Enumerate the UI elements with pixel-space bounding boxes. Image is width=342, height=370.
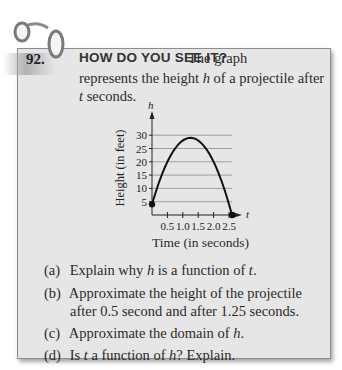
y-tick-labels: 51015202530 [136, 129, 148, 208]
y-axis-label: Height (in feet) [113, 129, 127, 206]
projectile-curve [152, 138, 232, 215]
svg-text:2.5: 2.5 [222, 220, 236, 232]
text: ? Explain. [176, 347, 235, 363]
svg-text:15: 15 [136, 169, 148, 181]
intro-line-2: represents the height h of a projectile … [79, 70, 324, 87]
x-axis-var: t [246, 208, 250, 220]
grid-lines [149, 135, 232, 202]
question-b: (b) Approximate the height of the projec… [44, 285, 302, 302]
y-axis-var: h [148, 100, 154, 111]
text: Approximate the height of the projectile [69, 285, 302, 301]
question-c: (c) Approximate the domain of h. [44, 325, 244, 342]
question-label: (b) [44, 285, 66, 302]
svg-text:10: 10 [136, 182, 148, 194]
x-axis-label: Time (in seconds) [152, 235, 249, 251]
text: . [253, 262, 257, 278]
text: Is [70, 347, 84, 363]
svg-text:5: 5 [142, 196, 148, 208]
y-axis-arrow-icon [150, 111, 155, 119]
question-label: (a) [44, 262, 66, 279]
svg-text:30: 30 [136, 129, 148, 141]
svg-text:1.5: 1.5 [191, 220, 205, 232]
cropped-previous-text [62, 0, 342, 7]
text: Explain why [70, 262, 147, 278]
text: . [240, 325, 244, 341]
svg-text:1.0: 1.0 [176, 220, 190, 232]
text: represents the height [79, 70, 203, 86]
question-label: (d) [44, 347, 66, 364]
text: a function of [88, 347, 169, 363]
svg-text:0.5: 0.5 [161, 220, 175, 232]
question-d: (d) Is t a function of h? Explain. [44, 347, 235, 364]
exercise-number: 92. [26, 51, 45, 68]
text: Approximate the domain of [69, 325, 233, 341]
svg-text:25: 25 [136, 143, 148, 155]
endpoint-dots [149, 201, 235, 218]
var-h: h [203, 70, 210, 86]
question-label: (c) [44, 325, 66, 342]
intro-line-1: The graph [188, 50, 247, 67]
question-b-line2: after 0.5 second and after 1.25 seconds. [70, 303, 299, 320]
height-time-chart: 51015202530 0.51.01.52.02.5 h t Height (… [100, 100, 260, 235]
svg-text:2.0: 2.0 [207, 220, 221, 232]
text: is a function of [154, 262, 249, 278]
svg-text:20: 20 [136, 156, 148, 168]
question-a: (a) Explain why h is a function of t. [44, 262, 257, 279]
text: of a projectile after [210, 70, 324, 86]
